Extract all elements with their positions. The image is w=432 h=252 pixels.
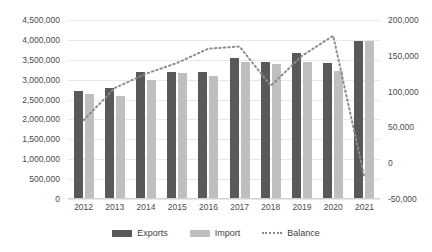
y-axis-right-tick: 150,000 xyxy=(388,52,419,61)
chart-container: 0500,0001,000,0001,500,0002,000,0002,500… xyxy=(0,0,432,252)
bar-import-2016[interactable] xyxy=(209,76,218,199)
y-axis-right-tick: 50,000 xyxy=(388,123,414,132)
bar-exports-2020[interactable] xyxy=(323,63,332,199)
y-axis-left-tick: 2,000,000 xyxy=(22,115,60,124)
bar-group xyxy=(318,20,349,199)
bar-import-2021[interactable] xyxy=(365,41,374,199)
bar-import-2013[interactable] xyxy=(116,96,125,199)
bar-group xyxy=(255,20,286,199)
bar-import-2020[interactable] xyxy=(334,71,343,199)
plot-area xyxy=(68,20,380,199)
x-axis-tick-2017: 2017 xyxy=(224,202,255,212)
bar-exports-2014[interactable] xyxy=(136,72,145,199)
bar-group xyxy=(286,20,317,199)
y-axis-left-tick: 3,500,000 xyxy=(22,56,60,65)
bar-group xyxy=(193,20,224,199)
y-axis-left-tick: 1,500,000 xyxy=(22,135,60,144)
bar-group xyxy=(349,20,380,199)
bar-series-group xyxy=(68,20,380,199)
bar-import-2018[interactable] xyxy=(272,64,281,199)
legend-item-exports[interactable]: Exports xyxy=(112,228,168,238)
x-axis-tick-2015: 2015 xyxy=(162,202,193,212)
x-axis-tick-2016: 2016 xyxy=(193,202,224,212)
legend-label: Balance xyxy=(287,228,320,238)
x-axis-tick-2019: 2019 xyxy=(286,202,317,212)
bar-import-2012[interactable] xyxy=(85,94,94,199)
x-axis-tick-2012: 2012 xyxy=(68,202,99,212)
bar-exports-2016[interactable] xyxy=(198,72,207,199)
bar-exports-2017[interactable] xyxy=(230,58,239,199)
bar-import-2017[interactable] xyxy=(241,62,250,199)
bar-import-2015[interactable] xyxy=(178,73,187,199)
y-axis-left-tick: 500,000 xyxy=(29,175,60,184)
y-axis-right-tick: -50,000 xyxy=(388,195,417,204)
y-axis-left-tick: 1,000,000 xyxy=(22,155,60,164)
y-axis-left-tick: 0 xyxy=(55,195,60,204)
y-axis-right-tick: 100,000 xyxy=(388,88,419,97)
bar-exports-2018[interactable] xyxy=(261,62,270,199)
y-axis-left-tick: 4,500,000 xyxy=(22,16,60,25)
y-axis-left-tick: 4,000,000 xyxy=(22,36,60,45)
bar-exports-2021[interactable] xyxy=(354,41,363,199)
bar-group xyxy=(130,20,161,199)
x-axis-tick-2020: 2020 xyxy=(318,202,349,212)
legend-label: Import xyxy=(215,228,241,238)
bar-group xyxy=(224,20,255,199)
legend-swatch-import-icon xyxy=(190,230,210,237)
legend-item-import[interactable]: Import xyxy=(190,228,241,238)
x-axis-tick-2013: 2013 xyxy=(99,202,130,212)
bar-exports-2012[interactable] xyxy=(74,91,83,199)
legend-item-balance[interactable]: Balance xyxy=(262,228,320,238)
gridline xyxy=(68,199,380,200)
legend-swatch-balance-icon xyxy=(262,232,282,234)
bar-exports-2013[interactable] xyxy=(105,88,114,199)
axis-baseline xyxy=(68,198,380,199)
bar-import-2019[interactable] xyxy=(303,62,312,199)
y-axis-right-tick: 0 xyxy=(388,159,393,168)
legend-label: Exports xyxy=(137,228,168,238)
x-axis-labels: 2012201320142015201620172018201920202021 xyxy=(68,202,380,212)
legend-swatch-exports-icon xyxy=(112,230,132,237)
y-axis-left-tick: 2,500,000 xyxy=(22,96,60,105)
bar-import-2014[interactable] xyxy=(147,80,156,199)
chart-legend: ExportsImportBalance xyxy=(0,228,432,238)
y-axis-right-tick: 200,000 xyxy=(388,16,419,25)
x-axis-tick-2018: 2018 xyxy=(255,202,286,212)
bar-group xyxy=(99,20,130,199)
bar-group xyxy=(68,20,99,199)
y-axis-left: 0500,0001,000,0001,500,0002,000,0002,500… xyxy=(0,20,64,199)
y-axis-left-tick: 3,000,000 xyxy=(22,76,60,85)
y-axis-right: -50,000050,000100,000150,000200,000 xyxy=(382,20,432,199)
x-axis-tick-2014: 2014 xyxy=(130,202,161,212)
x-axis-tick-2021: 2021 xyxy=(349,202,380,212)
bar-group xyxy=(162,20,193,199)
bar-exports-2015[interactable] xyxy=(167,72,176,199)
bar-exports-2019[interactable] xyxy=(292,53,301,199)
